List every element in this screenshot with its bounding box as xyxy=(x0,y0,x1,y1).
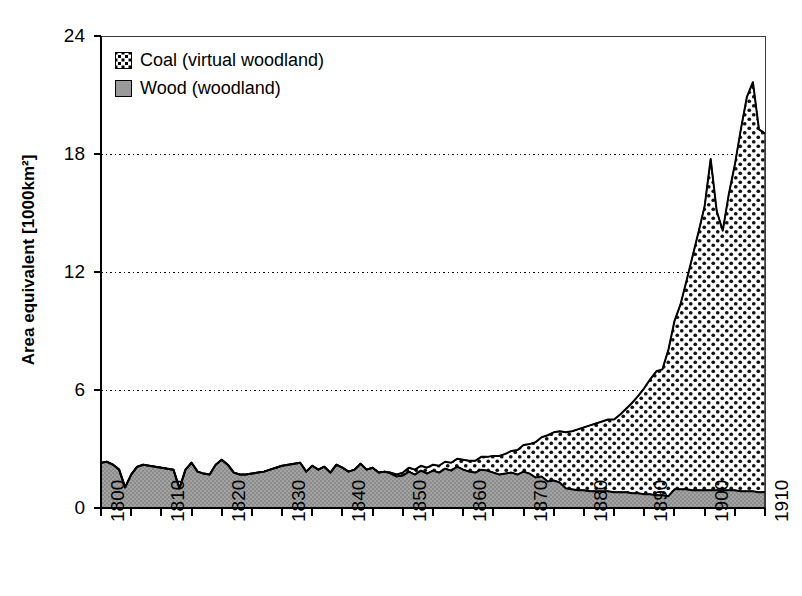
x-tick-label-1870: 1870 xyxy=(531,480,550,522)
legend-item-wood: Wood (woodland) xyxy=(115,75,324,101)
chart-legend: Coal (virtual woodland) Wood (woodland) xyxy=(115,47,324,103)
y-tick-label-12: 12 xyxy=(45,262,85,281)
legend-label-coal: Coal (virtual woodland) xyxy=(140,50,324,71)
x-tick-label-1910: 1910 xyxy=(772,480,791,522)
chart-container: Area equivalent [1000km²] 06121824 18001… xyxy=(0,0,802,596)
x-tick-label-1860: 1860 xyxy=(470,480,489,522)
y-tick-label-24: 24 xyxy=(45,26,85,45)
legend-swatch-coal-icon xyxy=(115,52,132,69)
x-tick-label-1820: 1820 xyxy=(229,480,248,522)
y-tick-label-18: 18 xyxy=(45,144,85,163)
x-tick-label-1840: 1840 xyxy=(349,480,368,522)
x-tick-label-1900: 1900 xyxy=(712,480,731,522)
x-tick-label-1880: 1880 xyxy=(591,480,610,522)
legend-swatch-wood-icon xyxy=(115,80,132,97)
x-tick-label-1830: 1830 xyxy=(289,480,308,522)
x-tick-label-1890: 1890 xyxy=(651,480,670,522)
legend-item-coal: Coal (virtual woodland) xyxy=(115,47,324,73)
x-tick-label-1810: 1810 xyxy=(168,480,187,522)
y-tick-label-6: 6 xyxy=(45,380,85,399)
x-tick-label-1800: 1800 xyxy=(108,480,127,522)
legend-label-wood: Wood (woodland) xyxy=(140,78,281,99)
y-tick-label-0: 0 xyxy=(45,498,85,517)
x-tick-label-1850: 1850 xyxy=(410,480,429,522)
